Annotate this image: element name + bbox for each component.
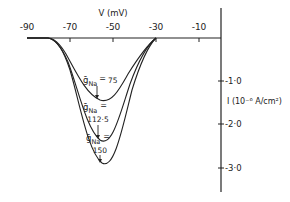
curve-gna-75 (27, 38, 156, 101)
y-tick-label: -2·0 (225, 119, 242, 129)
annotation-gna-75: ḡNa=75 (83, 74, 118, 99)
svg-text:ḡNa=75: ḡNa=75 (83, 74, 118, 88)
x-tick-label: -70 (63, 22, 78, 32)
svg-text:ḡNa=: ḡNa= (83, 101, 107, 115)
y-tick-label: -3·0 (225, 163, 242, 173)
x-axis-label: V (mV) (98, 8, 127, 18)
iv-curve-chart: -90 -70 -50 -30 -10 V (mV) -1·0 -2·0 -3·… (0, 0, 290, 202)
x-tick-label: -30 (149, 22, 164, 32)
y-tick-labels: -1·0 -2·0 -3·0 (225, 76, 242, 173)
svg-text:150: 150 (93, 146, 108, 155)
x-tick-label: -90 (20, 22, 35, 32)
x-tick-label: -10 (192, 22, 207, 32)
curve-gna-112-5 (27, 38, 156, 141)
y-axis-label: I (10⁻⁶ A/cm²) (227, 97, 282, 106)
x-tick-label: -50 (106, 22, 121, 32)
x-tick-labels: -90 -70 -50 -30 -10 (20, 22, 207, 32)
svg-text:112·5: 112·5 (87, 115, 109, 124)
y-tick-label: -1·0 (225, 76, 242, 86)
